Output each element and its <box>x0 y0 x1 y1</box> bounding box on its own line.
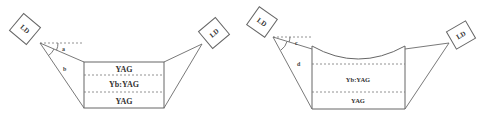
left-diagram-ld-right: LD <box>199 18 230 49</box>
angle-d-arc <box>281 42 287 51</box>
angle-c-arc <box>289 37 290 42</box>
left-layer-yag-bottom: YAG <box>115 97 132 106</box>
right-diagram-ld-right: LD <box>446 21 475 49</box>
left-layer-yag-top: YAG <box>115 65 132 74</box>
left-diagram-ld-left: LD <box>10 14 41 45</box>
pumping-geometry-diagram: LD a b YAG Yb:YAG YAG LD LD <box>0 0 485 115</box>
angle-b-label: b <box>63 66 67 72</box>
angle-a-label: a <box>62 46 65 52</box>
angle-c-label: c <box>295 40 298 46</box>
left-layer-ybyag: Yb:YAG <box>109 80 139 89</box>
angle-b-arc <box>49 49 55 56</box>
left-diagram: LD a b YAG Yb:YAG YAG LD <box>10 14 230 108</box>
angle-d-label: d <box>297 61 301 67</box>
left-right-beam-lower <box>164 44 202 108</box>
right-beam-lower <box>273 37 312 109</box>
right-diagram-ld-left: LD <box>247 7 278 38</box>
right-layer-ybyag: Yb:YAG <box>346 76 370 83</box>
right-layer-yag: YAG <box>351 97 365 104</box>
right-right-beam-lower <box>405 43 449 109</box>
right-right-beam-upper <box>405 43 449 49</box>
angle-a-arc <box>57 43 59 50</box>
right-diagram: LD c d Yb:YAG YAG LD <box>247 7 476 109</box>
